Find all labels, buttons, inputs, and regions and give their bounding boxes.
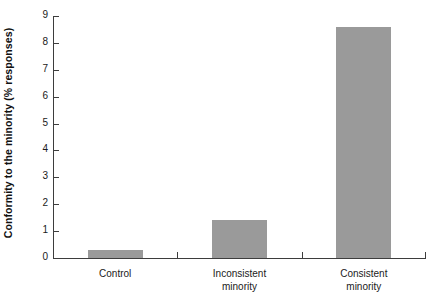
y-axis-line bbox=[53, 16, 54, 259]
x-axis-line bbox=[53, 258, 426, 259]
y-tick-mark bbox=[54, 204, 59, 205]
x-tick-mark bbox=[177, 252, 178, 259]
y-tick: 9 bbox=[53, 16, 59, 17]
x-axis-label: Consistentminority bbox=[302, 267, 426, 293]
y-tick-label: 0 bbox=[42, 251, 48, 262]
y-tick-label: 9 bbox=[42, 9, 48, 20]
y-tick-mark bbox=[54, 231, 59, 232]
y-tick-label: 4 bbox=[42, 143, 48, 154]
bar bbox=[212, 220, 267, 258]
y-tick: 0 bbox=[53, 258, 59, 259]
y-tick: 6 bbox=[53, 97, 59, 98]
y-axis-title: Conformity to the minority (% responses) bbox=[0, 0, 16, 265]
x-axis-label-line: Inconsistent bbox=[177, 267, 301, 280]
y-tick-label: 5 bbox=[42, 117, 48, 128]
x-tick-mark bbox=[302, 252, 303, 259]
y-tick-mark bbox=[54, 70, 59, 71]
bar bbox=[88, 250, 143, 258]
y-tick-label: 7 bbox=[42, 63, 48, 74]
y-tick: 4 bbox=[53, 150, 59, 151]
x-axis-label-line: Consistent bbox=[302, 267, 426, 280]
x-tick-mark bbox=[425, 252, 426, 259]
bar-chart-figure: Conformity to the minority (% responses)… bbox=[0, 0, 438, 303]
y-tick: 1 bbox=[53, 231, 59, 232]
bar bbox=[336, 27, 391, 258]
y-tick-mark bbox=[54, 43, 59, 44]
x-axis-label: Inconsistentminority bbox=[177, 267, 301, 293]
y-tick-mark bbox=[54, 177, 59, 178]
y-tick: 7 bbox=[53, 70, 59, 71]
x-axis-label-line: Control bbox=[53, 267, 177, 280]
y-tick-label: 6 bbox=[42, 90, 48, 101]
x-axis-label-line: minority bbox=[302, 280, 426, 293]
y-tick-mark bbox=[54, 150, 59, 151]
x-axis-label: Control bbox=[53, 267, 177, 280]
y-tick: 3 bbox=[53, 177, 59, 178]
y-tick-label: 2 bbox=[42, 197, 48, 208]
y-tick-mark bbox=[54, 16, 59, 17]
y-tick-label: 1 bbox=[42, 224, 48, 235]
y-tick-label: 8 bbox=[42, 36, 48, 47]
y-tick: 5 bbox=[53, 124, 59, 125]
y-tick-mark bbox=[54, 258, 59, 259]
y-tick: 2 bbox=[53, 204, 59, 205]
y-tick-mark bbox=[54, 124, 59, 125]
y-tick: 8 bbox=[53, 43, 59, 44]
y-axis-title-label: Conformity to the minority (% responses) bbox=[2, 27, 14, 238]
x-axis-label-line: minority bbox=[177, 280, 301, 293]
plot-area: 0123456789 bbox=[53, 16, 426, 259]
y-tick-mark bbox=[54, 97, 59, 98]
y-tick-label: 3 bbox=[42, 170, 48, 181]
